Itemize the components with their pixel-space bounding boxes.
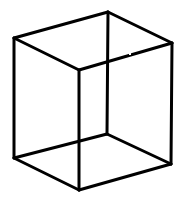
edge-bottom-front-bottom-left [14,158,79,190]
edge-top-left-top-back [14,12,108,38]
edge-bottom-back-bottom-right [107,134,171,164]
line-gap-mark [129,52,131,55]
necker-cube-diagram [0,0,185,202]
edge-top-back-top-right [108,12,172,43]
edge-bottom-left-bottom-back [14,134,107,158]
edge-vertical-back [107,12,108,134]
edge-top-front-top-left [14,38,79,70]
edge-bottom-right-bottom-front [79,164,171,190]
edge-vertical-right [171,43,172,164]
edge-top-right-top-front [79,43,172,70]
